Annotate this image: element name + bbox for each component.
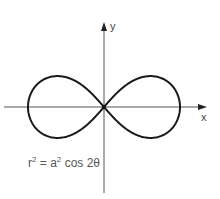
eq-rhs: cos 2θ <box>65 156 100 170</box>
eq-equals: = <box>40 156 47 170</box>
x-axis-label: x <box>201 111 207 123</box>
origin-point <box>102 105 106 109</box>
eq-a-exp: 2 <box>57 155 61 164</box>
eq-r-exp: 2 <box>32 155 36 164</box>
equation-label: r2 = a2 cos 2θ <box>28 155 100 170</box>
y-axis-label: y <box>110 20 116 32</box>
y-axis-arrow-icon <box>101 22 107 31</box>
eq-a: a <box>50 156 57 170</box>
x-axis-arrow-icon <box>198 104 207 110</box>
